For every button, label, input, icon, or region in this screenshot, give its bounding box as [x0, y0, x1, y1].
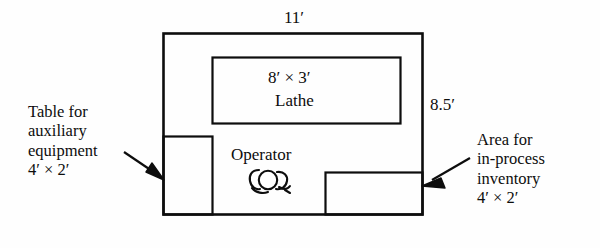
lathe-name-label: Lathe [275, 91, 314, 111]
floor-plan-diagram: 11′ 8.5′ 8′ × 3′ Lathe Operator Table fo… [0, 0, 600, 248]
left-leader-arrow [124, 152, 164, 180]
auxiliary-table-annotation: Table for auxiliary equipment 4′ × 2′ [28, 102, 98, 180]
right-leader-arrow [422, 158, 470, 188]
top-dimension-label: 11′ [284, 8, 304, 28]
lathe-size-label: 8′ × 3′ [268, 68, 311, 88]
operator-label: Operator [231, 145, 291, 165]
right-dimension-label: 8.5′ [430, 95, 455, 115]
inventory-area-annotation: Area for in-process inventory 4′ × 2′ [477, 130, 545, 208]
auxiliary-table-footprint [164, 137, 213, 215]
inventory-area-footprint [326, 173, 423, 215]
operator-top-view-icon [250, 170, 290, 193]
